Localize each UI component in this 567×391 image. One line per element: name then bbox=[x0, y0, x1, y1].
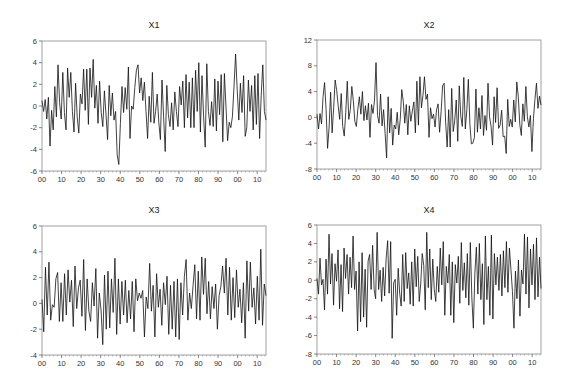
y-tick-label: 4 bbox=[33, 58, 37, 67]
x-tick-label: 40 bbox=[116, 359, 124, 368]
x-tick-label: 60 bbox=[155, 359, 163, 368]
x-tick-label: 60 bbox=[430, 358, 438, 367]
x-tick-label: 10 bbox=[253, 359, 261, 368]
y-tick-label: 8 bbox=[308, 61, 312, 70]
y-tick-label: 4 bbox=[308, 87, 312, 96]
x-tick-label: 70 bbox=[450, 173, 458, 182]
x-tick-label: 90 bbox=[489, 173, 497, 182]
x-tick-label: 20 bbox=[352, 173, 360, 182]
x-tick-label: 00 bbox=[233, 175, 241, 184]
y-tick-label: 4 bbox=[308, 239, 312, 248]
x-tick-label: 40 bbox=[391, 358, 399, 367]
x-tick-label: 20 bbox=[77, 175, 85, 184]
x-tick-label: 70 bbox=[450, 358, 458, 367]
y-tick-label: -8 bbox=[305, 350, 312, 359]
y-tick-label: 0 bbox=[308, 276, 312, 285]
x-tick-label: 70 bbox=[175, 175, 183, 184]
x-tick-label: 50 bbox=[136, 175, 144, 184]
x-tick-label: 50 bbox=[411, 358, 419, 367]
x-tick-label: 00 bbox=[38, 175, 46, 184]
plot-frame bbox=[317, 225, 541, 354]
x-tick-label: 30 bbox=[97, 175, 105, 184]
x-tick-label: 80 bbox=[469, 358, 477, 367]
y-tick-label: 12 bbox=[304, 36, 312, 45]
y-tick-label: 6 bbox=[33, 222, 37, 231]
y-tick-label: 6 bbox=[33, 37, 37, 46]
chart-x1: -6-4-20246001020304050607080900010 bbox=[30, 37, 266, 184]
x-tick-label: 10 bbox=[332, 173, 340, 182]
x-tick-label: 00 bbox=[38, 359, 46, 368]
y-tick-label: -6 bbox=[305, 331, 312, 340]
chart-x4: -8-6-4-20246001020304050607080900010 bbox=[305, 221, 541, 367]
series-line bbox=[317, 232, 541, 338]
x-tick-label: 10 bbox=[57, 359, 65, 368]
x-tick-label: 60 bbox=[155, 175, 163, 184]
x-tick-label: 90 bbox=[214, 359, 222, 368]
y-tick-label: -2 bbox=[305, 294, 312, 303]
x-tick-label: 30 bbox=[97, 359, 105, 368]
x-tick-label: 10 bbox=[528, 358, 536, 367]
x-tick-label: 60 bbox=[430, 173, 438, 182]
x-tick-label: 10 bbox=[57, 175, 65, 184]
x-tick-label: 30 bbox=[372, 173, 380, 182]
chart-x2: -8-404812001020304050607080900010 bbox=[304, 36, 541, 182]
x-tick-label: 80 bbox=[194, 175, 202, 184]
y-tick-label: -2 bbox=[30, 123, 37, 132]
x-tick-label: 00 bbox=[313, 358, 321, 367]
x-tick-label: 20 bbox=[77, 359, 85, 368]
x-tick-label: 00 bbox=[233, 359, 241, 368]
series-line bbox=[42, 54, 266, 165]
x-tick-label: 00 bbox=[508, 173, 516, 182]
x-tick-label: 10 bbox=[253, 175, 261, 184]
x-tick-label: 90 bbox=[489, 358, 497, 367]
y-tick-label: -4 bbox=[305, 313, 312, 322]
y-tick-label: 0 bbox=[33, 299, 37, 308]
x-tick-label: 40 bbox=[391, 173, 399, 182]
plot-frame bbox=[42, 41, 266, 171]
series-line bbox=[317, 63, 541, 158]
y-tick-label: -2 bbox=[30, 325, 37, 334]
y-tick-label: 2 bbox=[33, 273, 37, 282]
y-tick-label: 4 bbox=[33, 247, 37, 256]
y-tick-label: -8 bbox=[305, 165, 312, 174]
x-tick-label: 50 bbox=[136, 359, 144, 368]
x-tick-label: 80 bbox=[194, 359, 202, 368]
x-tick-label: 90 bbox=[214, 175, 222, 184]
y-tick-label: -6 bbox=[30, 167, 37, 176]
x-tick-label: 20 bbox=[352, 358, 360, 367]
y-tick-label: -4 bbox=[30, 145, 37, 154]
y-tick-label: -4 bbox=[305, 139, 312, 148]
chart-x3: -4-20246001020304050607080900010 bbox=[30, 222, 266, 368]
series-line bbox=[42, 249, 266, 344]
x-tick-label: 40 bbox=[116, 175, 124, 184]
y-tick-label: 0 bbox=[308, 113, 312, 122]
x-tick-label: 70 bbox=[175, 359, 183, 368]
x-tick-label: 50 bbox=[411, 173, 419, 182]
x-tick-label: 10 bbox=[528, 173, 536, 182]
x-tick-label: 10 bbox=[332, 358, 340, 367]
chart-canvas: -6-4-20246001020304050607080900010-8-404… bbox=[0, 0, 567, 391]
y-tick-label: 2 bbox=[33, 80, 37, 89]
y-tick-label: 6 bbox=[308, 221, 312, 230]
y-tick-label: -4 bbox=[30, 351, 37, 360]
y-tick-label: 0 bbox=[33, 102, 37, 111]
x-tick-label: 00 bbox=[313, 173, 321, 182]
x-tick-label: 00 bbox=[508, 358, 516, 367]
y-tick-label: 2 bbox=[308, 257, 312, 266]
x-tick-label: 30 bbox=[372, 358, 380, 367]
x-tick-label: 80 bbox=[469, 173, 477, 182]
